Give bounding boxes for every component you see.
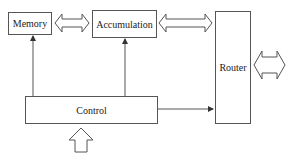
double-arrow-accumulation-router [159,14,212,32]
double-arrow-memory-accumulation [55,14,89,32]
accumulation-box: Accumulation [92,10,157,38]
memory-label: Memory [13,18,47,29]
router-label: Router [219,62,246,73]
double-arrow-router-external [254,51,285,79]
control-box: Control [25,96,158,124]
memory-box: Memory [8,12,52,35]
router-box: Router [215,11,251,124]
block-arrow-input-up [69,128,93,152]
accumulation-label: Accumulation [96,19,153,30]
control-label: Control [76,105,107,116]
